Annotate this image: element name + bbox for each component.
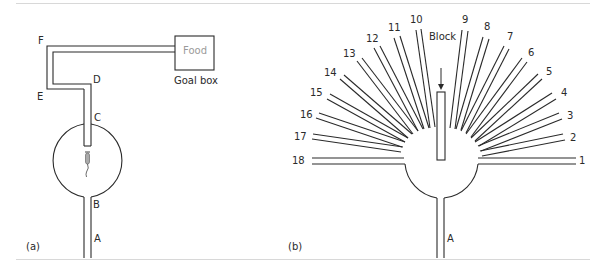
arm-label-1: 1 [579,155,585,166]
arm-label-17: 17 [294,131,307,142]
block-label: Block [429,31,456,42]
arm-label-16: 16 [300,109,313,120]
arrow-down-icon [438,68,444,90]
stem-label-A: A [447,233,454,244]
arm-label-4: 4 [561,87,567,98]
label-D: D [93,74,101,85]
rat-icon [85,152,90,177]
arm-label-18: 18 [292,155,305,166]
arm-label-3: 3 [567,110,573,121]
arm-label-15: 15 [310,87,323,98]
arm-label-2: 2 [570,132,576,143]
arm-label-14: 14 [324,67,337,78]
arm-label-6: 6 [528,47,534,58]
arm-label-10: 10 [410,14,423,25]
arm-label-7: 7 [507,31,513,42]
arm-label-9: 9 [462,14,468,25]
arm-label-5: 5 [546,66,552,77]
goal-box-label: Goal box [174,75,218,86]
maze-diagram: F E D C B A Food Goal box (a) [0,0,606,270]
arm-label-12: 12 [366,33,379,44]
panel-a-caption: (a) [26,241,40,252]
panel-b-caption: (b) [288,241,302,252]
label-B: B [93,199,100,210]
label-A: A [94,233,101,244]
arm-label-8: 8 [484,21,490,32]
panel-a-maze [47,36,214,258]
arm-label-11: 11 [388,22,401,33]
panel-b-radial-maze [312,29,576,258]
food-label: Food [183,45,207,56]
label-C: C [94,112,101,123]
label-E: E [37,91,43,102]
block-barrier [437,92,445,160]
label-F: F [38,35,44,46]
arm-label-13: 13 [343,48,356,59]
